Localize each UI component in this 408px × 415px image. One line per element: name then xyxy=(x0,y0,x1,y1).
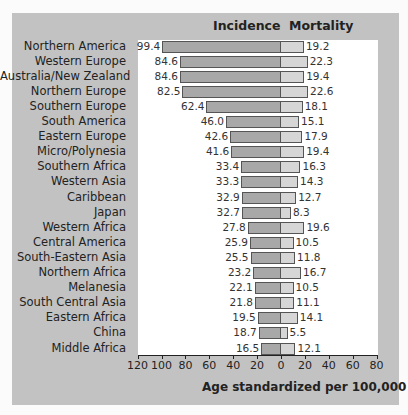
mortality-bar xyxy=(280,282,294,294)
category-label: Southern Europe xyxy=(0,99,126,113)
incidence-bar xyxy=(251,252,281,264)
incidence-bar xyxy=(255,282,281,294)
incidence-value: 33.4 xyxy=(216,160,239,172)
mortality-bar xyxy=(280,327,288,339)
mortality-value: 22.6 xyxy=(310,85,333,97)
mortality-value: 8.3 xyxy=(293,206,310,218)
category-label: South America xyxy=(0,114,126,128)
category-label: Melanesia xyxy=(0,280,126,294)
incidence-value: 22.1 xyxy=(229,281,252,293)
incidence-header: Incidence xyxy=(213,18,280,33)
mortality-bar xyxy=(280,222,304,234)
mortality-value: 17.9 xyxy=(304,130,327,142)
mortality-bar xyxy=(280,146,304,158)
category-label: Micro/Polynesia xyxy=(0,144,126,158)
incidence-value: 46.0 xyxy=(201,115,224,127)
category-label: Middle Africa xyxy=(0,341,126,355)
category-label: Western Asia xyxy=(0,174,126,188)
incidence-bar xyxy=(180,56,281,68)
mortality-bar xyxy=(280,267,301,279)
mortality-bar xyxy=(280,116,299,128)
mortality-value: 15.1 xyxy=(301,115,324,127)
category-label: China xyxy=(0,325,126,339)
mortality-bar xyxy=(280,161,300,173)
incidence-value: 33.3 xyxy=(216,175,239,187)
incidence-value: 18.7 xyxy=(233,326,256,338)
incidence-value: 16.5 xyxy=(236,342,259,354)
incidence-value: 19.5 xyxy=(232,311,255,323)
mortality-value: 5.5 xyxy=(290,326,307,338)
incidence-bar xyxy=(242,207,281,219)
incidence-value: 32.9 xyxy=(216,191,239,203)
incidence-bar xyxy=(258,312,281,324)
incidence-bar xyxy=(231,146,281,158)
incidence-bar xyxy=(261,343,281,355)
incidence-bar xyxy=(241,176,281,188)
mortality-value: 18.1 xyxy=(305,100,328,112)
mortality-value: 19.2 xyxy=(306,40,329,52)
incidence-value: 82.5 xyxy=(157,85,180,97)
category-label: Eastern Europe xyxy=(0,129,126,143)
category-label: Caribbean xyxy=(0,190,126,204)
category-label: Japan xyxy=(0,205,126,219)
mortality-value: 19.6 xyxy=(306,221,329,233)
mortality-bar xyxy=(280,131,302,143)
mortality-bar xyxy=(280,207,291,219)
mortality-value: 22.3 xyxy=(310,55,333,67)
incidence-bar xyxy=(255,297,281,309)
incidence-bar xyxy=(162,41,281,53)
incidence-value: 41.6 xyxy=(206,145,229,157)
mortality-value: 10.5 xyxy=(296,281,319,293)
category-label: Central America xyxy=(0,235,126,249)
mortality-bar xyxy=(280,312,298,324)
incidence-value: 32.7 xyxy=(217,206,240,218)
incidence-bar xyxy=(250,237,281,249)
mortality-bar xyxy=(280,176,298,188)
category-label: Western Europe xyxy=(0,54,126,68)
incidence-value: 84.6 xyxy=(155,70,178,82)
mortality-value: 14.3 xyxy=(300,175,323,187)
mortality-value: 10.5 xyxy=(296,236,319,248)
mortality-bar xyxy=(280,297,294,309)
incidence-value: 25.9 xyxy=(225,236,248,248)
mortality-value: 11.1 xyxy=(296,296,319,308)
category-label: South Central Asia xyxy=(0,295,126,309)
incidence-value: 27.8 xyxy=(222,221,245,233)
mortality-bar xyxy=(280,343,295,355)
incidence-bar xyxy=(241,161,281,173)
mortality-value: 12.7 xyxy=(298,191,321,203)
mortality-value: 19.4 xyxy=(306,70,329,82)
category-label: Northern Africa xyxy=(0,265,126,279)
mortality-bar xyxy=(280,41,304,53)
incidence-bar xyxy=(248,222,281,234)
category-label: South-Eastern Asia xyxy=(0,250,126,264)
mortality-bar xyxy=(280,86,308,98)
category-label: Northern America xyxy=(0,39,126,53)
incidence-value: 99.4 xyxy=(137,40,160,52)
mortality-bar xyxy=(280,101,303,113)
mortality-value: 14.1 xyxy=(300,311,323,323)
incidence-value: 62.4 xyxy=(181,100,204,112)
incidence-bar xyxy=(226,116,281,128)
tick-label: 80 xyxy=(362,359,392,372)
mortality-bar xyxy=(280,71,304,83)
incidence-bar xyxy=(242,192,281,204)
incidence-value: 84.6 xyxy=(155,55,178,67)
incidence-bar xyxy=(180,71,281,83)
mortality-bar xyxy=(280,237,294,249)
mortality-bar xyxy=(280,192,296,204)
incidence-bar xyxy=(259,327,281,339)
incidence-value: 21.8 xyxy=(230,296,253,308)
mortality-header: Mortality xyxy=(289,18,353,33)
incidence-value: 25.5 xyxy=(225,251,248,263)
category-label: Eastern Africa xyxy=(0,310,126,324)
incidence-bar xyxy=(206,101,281,113)
incidence-bar xyxy=(253,267,281,279)
incidence-value: 23.2 xyxy=(228,266,251,278)
mortality-bar xyxy=(280,56,308,68)
x-axis-label: Age standardized per 100,000 xyxy=(202,380,406,394)
category-label: Northern Europe xyxy=(0,84,126,98)
category-label: Western Africa xyxy=(0,220,126,234)
mortality-value: 16.7 xyxy=(303,266,326,278)
category-label: Australia/New Zealand xyxy=(0,69,126,83)
